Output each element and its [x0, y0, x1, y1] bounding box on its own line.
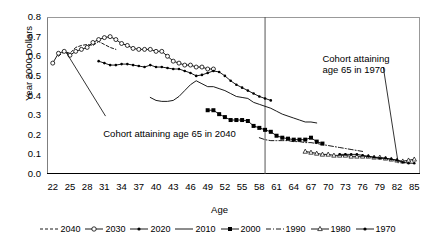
y-tick-0.5: 0.5	[28, 71, 41, 81]
cohort-1970-annotation-line2: age 65 in 1970	[322, 64, 385, 75]
chart-legend: 20402030202020102000199019801970	[0, 220, 439, 238]
marker-2000	[229, 118, 233, 122]
x-tick-55: 55	[237, 182, 248, 192]
marker-1970	[390, 158, 393, 161]
legend-item-1970[interactable]: 1970	[355, 224, 400, 234]
marker-2020	[166, 67, 169, 70]
marker-1970	[344, 153, 347, 156]
marker-2020	[178, 68, 181, 71]
marker-1970	[373, 156, 376, 159]
x-tick-67: 67	[306, 182, 317, 192]
marker-2000	[280, 136, 284, 140]
marker-1970	[384, 157, 387, 160]
y-tick-0.0: 0.0	[28, 169, 41, 179]
chart-canvas	[47, 17, 420, 174]
y-tick-0.6: 0.6	[28, 52, 41, 62]
x-tick-85: 85	[409, 182, 420, 192]
marker-2020	[252, 92, 255, 95]
legend-item-2010[interactable]: 2010	[174, 224, 219, 234]
legend-item-2040[interactable]: 2040	[39, 224, 84, 234]
marker-2030	[160, 49, 164, 53]
marker-2030	[183, 63, 187, 67]
marker-2030	[177, 61, 181, 65]
cohort-1970-annotation-line1: Cohort attaining	[322, 53, 389, 64]
chart-root: Year 2000 Dollars 0.00.10.20.30.40.50.60…	[0, 0, 439, 243]
marker-2020	[172, 68, 175, 71]
marker-2030	[194, 65, 198, 69]
marker-2030	[131, 46, 135, 50]
y-tick-0.2: 0.2	[28, 130, 41, 140]
marker-2030	[148, 47, 152, 51]
marker-2020	[195, 75, 198, 78]
marker-1970	[356, 153, 359, 156]
y-tick-0.4: 0.4	[28, 91, 41, 101]
marker-2020	[155, 66, 158, 69]
leader-line-2040	[67, 53, 106, 116]
marker-2020	[224, 75, 227, 78]
marker-2000	[263, 128, 267, 132]
marker-2020	[109, 64, 112, 67]
marker-2000	[246, 119, 250, 123]
legend-label-1970: 1970	[376, 224, 396, 234]
legend-symbol-1970-icon	[355, 224, 375, 234]
x-tick-40: 40	[151, 182, 162, 192]
legend-item-1980[interactable]: 1980	[310, 224, 355, 234]
y-tick-0.1: 0.1	[28, 150, 41, 160]
marker-1980	[412, 157, 416, 161]
marker-2020	[138, 65, 141, 68]
x-tick-73: 73	[340, 182, 351, 192]
marker-2030	[102, 36, 106, 40]
marker-1970	[413, 162, 416, 165]
x-tick-58: 58	[254, 182, 265, 192]
marker-2020	[270, 99, 273, 102]
marker-2000	[297, 138, 301, 142]
marker-2020	[132, 64, 135, 67]
marker-2020	[160, 66, 163, 69]
marker-2020	[97, 60, 100, 63]
marker-1970	[338, 153, 341, 156]
marker-2000	[217, 112, 221, 116]
legend-label-1990: 1990	[286, 224, 306, 234]
x-tick-49: 49	[202, 182, 213, 192]
legend-symbol-2040-icon	[39, 224, 59, 234]
marker-2030	[97, 38, 101, 42]
marker-2030	[166, 54, 170, 58]
plot-area	[47, 17, 420, 174]
marker-2020	[120, 63, 123, 66]
legend-symbol-2000-icon	[220, 224, 240, 234]
series-line-2010	[150, 81, 316, 123]
legend-item-1990[interactable]: 1990	[265, 224, 310, 234]
x-tick-34: 34	[116, 182, 127, 192]
legend-symbol-1980-icon	[310, 224, 330, 234]
legend-item-2000[interactable]: 2000	[220, 224, 265, 234]
marker-2030	[74, 49, 78, 53]
marker-2000	[240, 118, 244, 122]
x-tick-61: 61	[271, 182, 282, 192]
marker-2000	[257, 126, 261, 130]
legend-item-2030[interactable]: 2030	[84, 224, 129, 234]
legend-label-2020: 2020	[150, 224, 170, 234]
marker-2000	[269, 130, 273, 134]
legend-item-2020[interactable]: 2020	[129, 224, 174, 234]
marker-2020	[229, 79, 232, 82]
marker-2000	[309, 136, 313, 140]
marker-2030	[188, 63, 192, 67]
marker-2020	[149, 64, 152, 67]
marker-1980	[303, 149, 307, 153]
legend-label-2010: 2010	[195, 224, 215, 234]
marker-2030	[143, 47, 147, 51]
y-tick-0.7: 0.7	[28, 32, 41, 42]
marker-2000	[223, 115, 227, 119]
x-tick-64: 64	[288, 182, 299, 192]
marker-2030	[120, 41, 124, 45]
x-axis-tick-labels: 2225283134374043464952555861646770737679…	[0, 182, 439, 196]
marker-2020	[247, 89, 250, 92]
marker-2030	[125, 43, 129, 47]
marker-2030	[79, 47, 83, 51]
legend-symbol-1990-icon	[265, 224, 285, 234]
marker-2020	[241, 86, 244, 89]
marker-2000	[234, 118, 238, 122]
marker-2030	[114, 38, 118, 42]
x-tick-37: 37	[134, 182, 145, 192]
x-tick-79: 79	[375, 182, 386, 192]
